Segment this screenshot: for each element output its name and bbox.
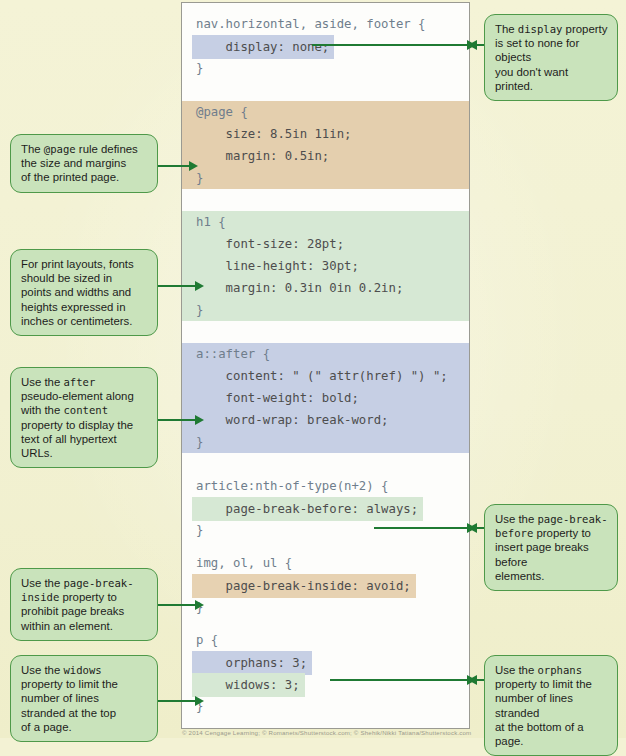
callout-line: inches or centimeters.: [21, 314, 148, 328]
code-line: margin: 0.3in 0in 0.2in;: [182, 277, 469, 299]
callout-page-break-before: Use the page-break-before property toins…: [484, 504, 618, 591]
code-listing-panel: nav.horizontal, aside, footer { display:…: [181, 2, 470, 729]
callout-line: Use the widows: [21, 663, 148, 677]
code-line: line-height: 30pt;: [182, 255, 469, 277]
arrow-display-none: [312, 44, 468, 46]
arrow-page-break-before: [374, 527, 468, 529]
callout-line: Use the after: [21, 375, 148, 389]
callout-connector-display-none: [476, 44, 484, 46]
code-line: }: [182, 519, 469, 541]
code-line: page-break-inside: avoid;: [182, 574, 469, 596]
callout-line: elements.: [495, 569, 608, 583]
code-spacer: [182, 541, 469, 552]
callout-print-fonts: For print layouts, fontsshould be sized …: [10, 249, 158, 336]
arrow-page-break-inside: [158, 604, 196, 606]
css-rule-rule-page: @page { size: 8.5in 11in; margin: 0.5in;…: [182, 101, 469, 189]
callout-line: insert page breaks before: [495, 540, 608, 568]
css-rule-rule-img-ol-ul: img, ol, ul { page-break-inside: avoid;}: [182, 552, 469, 618]
callout-line: property to limit the: [495, 677, 608, 691]
callout-line: of a page.: [21, 720, 148, 734]
code-spacer: [182, 189, 469, 211]
code-line: img, ol, ul {: [182, 552, 469, 574]
code-spacer: [182, 321, 469, 343]
code-line: }: [182, 167, 469, 189]
callout-line: property to display the: [21, 418, 148, 432]
callout-line: Use the orphans: [495, 663, 608, 677]
css-rule-rule-a-after: a::after { content: " (" attr(href) ") "…: [182, 343, 469, 453]
callout-line: prohibit page breaks: [21, 604, 148, 618]
code-line: margin: 0.5in;: [182, 145, 469, 167]
code-line: widows: 3;: [182, 673, 469, 695]
arrow-after-pseudo: [158, 419, 196, 421]
copyright-credit: © 2014 Cengage Learning; © Romanets/Shut…: [182, 729, 602, 736]
callout-line: property to limit the: [21, 677, 148, 691]
callout-line: For print layouts, fonts: [21, 257, 148, 271]
callout-line: heights expressed in: [21, 300, 148, 314]
callout-line: points and widths and: [21, 285, 148, 299]
callout-page-rule: The @page rule definesthe size and margi…: [10, 134, 158, 193]
callout-line: should be sized in: [21, 271, 148, 285]
callout-line: Use the page-break-: [495, 512, 608, 526]
callout-line: the size and margins: [21, 156, 148, 170]
arrow-print-fonts: [158, 285, 196, 287]
code-line: }: [182, 695, 469, 717]
code-spacer: [182, 453, 469, 475]
callout-line: The @page rule defines: [21, 142, 148, 156]
callout-line: number of lines stranded: [495, 691, 608, 719]
callout-line: text of all hypertext: [21, 432, 148, 446]
code-line: font-weight: bold;: [182, 387, 469, 409]
code-spacer: [182, 618, 469, 629]
code-line: font-size: 28pt;: [182, 233, 469, 255]
code-line: display: none;: [182, 35, 469, 57]
code-spacer: [182, 79, 469, 101]
callout-line: before property to: [495, 526, 608, 540]
callout-line: of the printed page.: [21, 170, 148, 184]
code-line: @page {: [182, 101, 469, 123]
css-rule-rule-h1: h1 { font-size: 28pt; line-height: 30pt;…: [182, 211, 469, 321]
code-line: a::after {: [182, 343, 469, 365]
css-rule-rule-display-none: nav.horizontal, aside, footer { display:…: [182, 13, 469, 79]
arrow-orphans: [330, 679, 468, 681]
callout-line: inside property to: [21, 590, 148, 604]
callout-orphans: Use the orphansproperty to limit thenumb…: [484, 655, 618, 756]
callout-line: stranded at the top: [21, 706, 148, 720]
callout-page-break-inside: Use the page-break-inside property topro…: [10, 568, 158, 641]
arrow-widows: [158, 700, 196, 702]
callout-line: number of lines: [21, 691, 148, 705]
code-line: }: [182, 299, 469, 321]
callout-connector-orphans: [476, 679, 484, 681]
callout-line: URLs.: [21, 446, 148, 460]
css-rule-rule-p: p { orphans: 3; widows: 3;}: [182, 629, 469, 717]
code-line: content: " (" attr(href) ") ";: [182, 365, 469, 387]
css-rule-rule-article-nth: article:nth-of-type(n+2) { page-break-be…: [182, 475, 469, 541]
callout-display-none: The display propertyis set to none for o…: [484, 14, 618, 101]
callout-line: pseudo-element along: [21, 389, 148, 403]
code-listing: nav.horizontal, aside, footer { display:…: [182, 3, 469, 728]
callout-line: with the content: [21, 403, 148, 417]
code-line: orphans: 3;: [182, 651, 469, 673]
code-line: page-break-before: always;: [182, 497, 469, 519]
code-line: }: [182, 596, 469, 618]
code-line: p {: [182, 629, 469, 651]
code-line: }: [182, 57, 469, 79]
code-line: nav.horizontal, aside, footer {: [182, 13, 469, 35]
code-line: article:nth-of-type(n+2) {: [182, 475, 469, 497]
code-line: h1 {: [182, 211, 469, 233]
callout-line: is set to none for objects: [495, 36, 608, 64]
callout-widows: Use the widowsproperty to limit thenumbe…: [10, 655, 158, 742]
callout-after-pseudo: Use the afterpseudo-element alongwith th…: [10, 367, 158, 468]
arrow-page-rule: [158, 165, 190, 167]
callout-connector-pbb: [476, 527, 484, 529]
callout-line: within an element.: [21, 619, 148, 633]
callout-line: Use the page-break-: [21, 576, 148, 590]
code-line: }: [182, 431, 469, 453]
callout-line: you don't want printed.: [495, 65, 608, 93]
code-line: word-wrap: break-word;: [182, 409, 469, 431]
code-line: size: 8.5in 11in;: [182, 123, 469, 145]
callout-line: The display property: [495, 22, 608, 36]
